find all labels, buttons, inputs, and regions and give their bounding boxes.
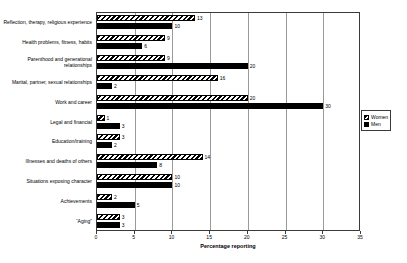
bar-value-label: 20 xyxy=(250,63,256,69)
bar-value-label: 9 xyxy=(167,35,170,41)
bar-rows: 1310969201622030133214810102533 xyxy=(97,13,359,230)
bar-row: 33 xyxy=(97,212,359,232)
category-label: Work and career xyxy=(0,99,92,105)
plot-area: 1310969201622030133214810102533 xyxy=(96,12,360,231)
legend-swatch-men-icon xyxy=(364,122,369,127)
category-label: Illnesses and deaths of others xyxy=(0,158,92,164)
bar-row: 13 xyxy=(97,113,359,133)
category-label: Achievements xyxy=(0,198,92,204)
bar-value-label: 6 xyxy=(144,43,147,49)
bar-value-label: 10 xyxy=(174,182,180,188)
category-label: Legal and financial xyxy=(0,119,92,125)
bar-row: 32 xyxy=(97,132,359,152)
bar-men xyxy=(97,142,112,148)
bar-women xyxy=(97,35,165,41)
bar-men xyxy=(97,83,112,89)
bar-row: 25 xyxy=(97,192,359,212)
bar-women xyxy=(97,15,195,21)
bar-women xyxy=(97,115,105,121)
x-tick-label: 20 xyxy=(244,234,250,241)
bar-men xyxy=(97,63,248,69)
bar-value-label: 2 xyxy=(114,194,117,200)
bar-women xyxy=(97,174,172,180)
bar-value-label: 2 xyxy=(114,83,117,89)
bar-row: 1010 xyxy=(97,172,359,192)
bar-value-label: 5 xyxy=(137,202,140,208)
x-tick-label: 15 xyxy=(206,234,212,241)
category-label: “Aging” xyxy=(0,218,92,224)
legend-item-men: Men xyxy=(364,121,388,127)
bar-women xyxy=(97,95,248,101)
bar-value-label: 3 xyxy=(122,214,125,220)
bar-row: 2030 xyxy=(97,93,359,113)
x-tick-label: 25 xyxy=(282,234,288,241)
bar-value-label: 13 xyxy=(197,15,203,21)
bar-value-label: 14 xyxy=(205,154,211,160)
bar-women xyxy=(97,194,112,200)
bar-value-label: 9 xyxy=(167,55,170,61)
bar-value-label: 3 xyxy=(122,134,125,140)
bar-value-label: 3 xyxy=(122,123,125,129)
bar-women xyxy=(97,214,120,220)
bar-women xyxy=(97,154,203,160)
category-axis-labels: Reflection, therapy, religious experienc… xyxy=(0,12,92,231)
legend-label-women: Women xyxy=(371,114,388,120)
bar-value-label: 10 xyxy=(174,174,180,180)
category-label: Reflection, therapy, religious experienc… xyxy=(0,19,92,25)
x-tick-label: 10 xyxy=(169,234,175,241)
category-label: Marital, partner, sexual relationships xyxy=(0,79,92,85)
bar-row: 162 xyxy=(97,73,359,93)
bar-men xyxy=(97,123,120,129)
x-tick-label: 5 xyxy=(132,234,135,241)
category-label: Situations exposing character xyxy=(0,178,92,184)
bar-value-label: 3 xyxy=(122,222,125,228)
bar-row: 1310 xyxy=(97,13,359,33)
bar-row: 96 xyxy=(97,33,359,53)
bar-women xyxy=(97,134,120,140)
bar-row: 920 xyxy=(97,53,359,73)
bar-row: 148 xyxy=(97,152,359,172)
chart-container: Reflection, therapy, religious experienc… xyxy=(0,0,407,263)
legend-swatch-women-icon xyxy=(364,115,369,120)
bar-men xyxy=(97,23,172,29)
category-label: Education/training xyxy=(0,138,92,144)
bar-men xyxy=(97,222,120,228)
bar-women xyxy=(97,75,218,81)
legend-item-women: Women xyxy=(364,114,388,120)
bar-men xyxy=(97,103,323,109)
bar-men xyxy=(97,43,142,49)
chart-legend: Women Men xyxy=(361,110,391,131)
x-tick-label: 30 xyxy=(320,234,326,241)
bar-value-label: 16 xyxy=(220,75,226,81)
x-tick-label: 0 xyxy=(95,234,98,241)
bar-men xyxy=(97,162,157,168)
bar-value-label: 1 xyxy=(107,115,110,121)
bar-value-label: 30 xyxy=(325,103,331,109)
bar-value-label: 10 xyxy=(174,23,180,29)
bar-women xyxy=(97,55,165,61)
bar-value-label: 2 xyxy=(114,142,117,148)
bar-men xyxy=(97,182,172,188)
category-label: Health problems, fitness, habits xyxy=(0,39,92,45)
category-label: Parenthood and generational relationship… xyxy=(0,56,92,68)
legend-label-men: Men xyxy=(371,121,381,127)
x-axis-title: Percentage reporting xyxy=(96,243,360,249)
bar-men xyxy=(97,202,135,208)
x-axis-ticks: 05101520253035 xyxy=(96,231,360,243)
bar-value-label: 8 xyxy=(159,162,162,168)
x-tick-label: 35 xyxy=(357,234,363,241)
bar-value-label: 20 xyxy=(250,95,256,101)
